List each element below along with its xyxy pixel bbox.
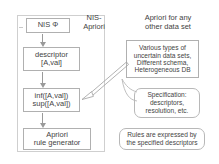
apriori-other-dataset-heading: Apriori for any other data set [122, 14, 214, 32]
box-various-data-types-line3: Different schema, [137, 59, 189, 66]
bubble-rules-expressed-line1: Rules are expressed by [127, 131, 196, 139]
bubble-specification-line2: descriptors, [150, 99, 184, 107]
nis-box-left-tick [19, 27, 23, 28]
arrow-descriptor-to-infsup [42, 72, 43, 84]
nis-apriori-heading: NIS- Apriori [72, 14, 116, 32]
nis-apriori-heading-line2: Apriori [72, 23, 116, 32]
node-nis-line1: NIS Φ [38, 21, 59, 29]
bubble-specification[interactable]: Specification: descriptors, resolution, … [134, 88, 200, 118]
node-descriptor-line2: [A,val] [41, 59, 62, 67]
bubble-rules-expressed-line2: the specified descriptors [126, 139, 197, 147]
node-descriptor[interactable]: descriptor [A,val] [23, 47, 80, 71]
bubble-specification-line1: Specification: [147, 91, 186, 99]
box-various-data-types[interactable]: Various types of uncertain data sets, Di… [126, 40, 199, 78]
box-various-data-types-line1: Various types of [139, 44, 186, 51]
box-various-data-types-line2: uncertain data sets, [134, 52, 192, 59]
arrow-nis-to-descriptor [42, 34, 43, 43]
node-apriori-rule-generator-line2: rule generator [34, 139, 81, 147]
diagram-canvas: NIS- Apriori Apriori for any other data … [0, 0, 219, 164]
bubble-rules-expressed[interactable]: Rules are expressed by the specified des… [119, 128, 205, 150]
node-inf-sup-line2: sup([A,val]) [33, 100, 71, 108]
node-apriori-rule-generator[interactable]: Apriori rule generator [23, 128, 91, 150]
bubble-specification-line3: resolution, etc. [146, 107, 189, 115]
apriori-other-dataset-heading-line2: other data set [122, 23, 214, 32]
node-nis[interactable]: NIS Φ [26, 18, 70, 33]
arrow-infsup-to-generator [42, 113, 43, 124]
box-various-data-types-line4: Heterogeneous DB [134, 66, 190, 73]
node-inf-sup[interactable]: inf([A,val]) sup([A,val]) [23, 88, 80, 112]
